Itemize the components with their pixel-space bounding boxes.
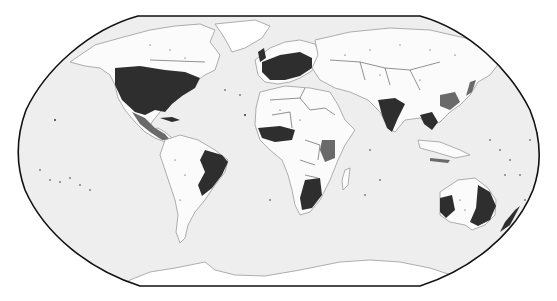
map-canvas [0, 0, 557, 301]
world-map [0, 0, 557, 301]
